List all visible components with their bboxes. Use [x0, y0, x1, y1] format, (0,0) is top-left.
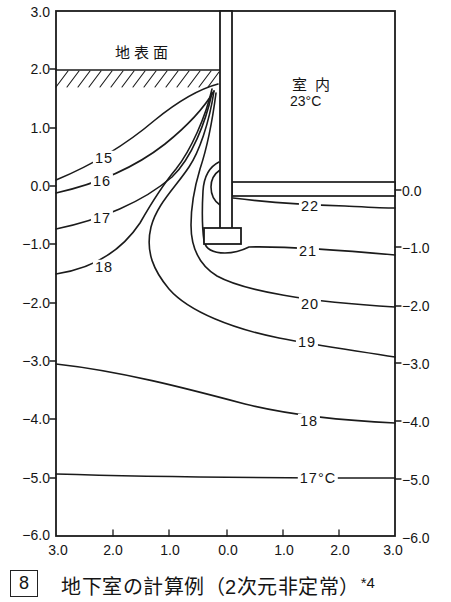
y-axis-label-right: −6.0 [402, 531, 430, 545]
contour-label-16: 16 [91, 174, 113, 189]
figure-caption-footnote: *4 [361, 574, 375, 591]
ground-hatching [56, 71, 219, 87]
y-axis-label-left: −3.0 [0, 354, 50, 368]
figure-caption-text: 地下室の計算例（2次元非定常）*4 [61, 571, 375, 600]
room-label: 室 内 [292, 77, 332, 92]
x-axis-label: 2.0 [103, 543, 122, 557]
x-axis-label: 3.0 [48, 543, 67, 557]
x-axis-label: 2.0 [330, 543, 349, 557]
y-axis-label-right: −1.0 [402, 241, 430, 255]
y-axis-label-left: 0.0 [0, 179, 50, 193]
contour-18-upper-line [56, 89, 212, 274]
contour-label-20: 20 [299, 297, 321, 312]
y-axis-label-left: −6.0 [0, 528, 50, 542]
contour-19-line [149, 91, 395, 357]
contour-label-22: 22 [299, 199, 321, 214]
x-axis-ticks [113, 530, 339, 536]
y-axis-label-left: −1.0 [0, 237, 50, 251]
y-axis-label-left: −5.0 [0, 471, 50, 485]
x-axis-label: 1.0 [160, 543, 179, 557]
y-axis-label-left: 1.0 [0, 121, 50, 135]
y-axis-label-left: 2.0 [0, 62, 50, 76]
contour-label-18-deep: 18 [298, 414, 320, 429]
y-axis-label-left: 3.0 [0, 5, 50, 19]
floor-slab [232, 182, 395, 196]
basement-wall [220, 11, 232, 230]
y-axis-label-right: −3.0 [402, 357, 430, 371]
contour-label-18: 18 [93, 260, 115, 275]
contour-17-deep-line [56, 474, 395, 478]
contour-label-19: 19 [296, 335, 318, 350]
contour-label-17: 17 [91, 211, 113, 226]
contour-18-deep-line [56, 364, 395, 423]
contour-15-line [56, 84, 218, 180]
y-axis-label-right: −5.0 [402, 473, 430, 487]
figure-number-box: 8 [10, 570, 38, 597]
y-axis-label-right: 0.0 [402, 184, 421, 198]
y-axis-label-left: −4.0 [0, 412, 50, 426]
contour-plot-canvas [0, 0, 451, 602]
y-axis-label-right: −2.0 [402, 299, 430, 313]
x-axis-label: 0.0 [218, 543, 237, 557]
wall-footing [204, 228, 241, 244]
contour-17-line [56, 93, 212, 229]
x-axis-label: 3.0 [383, 543, 402, 557]
contour-22-left-loop [211, 170, 220, 205]
y-axis-label-left: −2.0 [0, 296, 50, 310]
contour-label-15: 15 [93, 151, 115, 166]
y-axis-label-right: −4.0 [402, 415, 430, 429]
ground-surface-label: 地表面 [115, 45, 172, 60]
contour-label-17-deep: 17°C [298, 471, 338, 486]
contour-16-line [56, 91, 214, 193]
basement-contour-figure: 3.0 2.0 1.0 0.0 −1.0 −2.0 −3.0 −4.0 −5.0… [0, 0, 451, 602]
figure-caption-title: 地下室の計算例（2次元非定常） [61, 576, 360, 598]
x-axis-label: 1.0 [274, 543, 293, 557]
room-temperature-label: 23°C [290, 94, 321, 108]
contour-label-21: 21 [297, 244, 319, 259]
